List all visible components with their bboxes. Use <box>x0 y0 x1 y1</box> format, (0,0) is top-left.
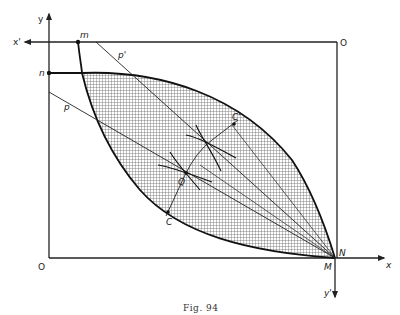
label-o-top-right: O <box>340 38 347 48</box>
figure-caption: Fig. 94 <box>183 303 219 313</box>
label-o-bottom-left: O <box>38 262 45 272</box>
point-q <box>184 171 188 175</box>
point-m <box>76 40 80 44</box>
edgeworth-box-diagram: y x' O O m n p' p C' Q C N M x y' Fig. 9… <box>0 0 400 315</box>
label-x: x <box>385 260 392 270</box>
label-n: n <box>39 68 45 78</box>
point-n <box>47 71 51 75</box>
label-q: Q <box>178 177 185 187</box>
point-c <box>166 210 170 214</box>
label-c: C <box>166 217 173 227</box>
label-big-m: M <box>324 262 332 272</box>
label-p: p <box>63 102 70 112</box>
label-c-prime: C' <box>232 112 241 122</box>
label-big-n: N <box>339 248 346 258</box>
label-p-prime: p' <box>117 50 126 60</box>
label-x-prime: x' <box>13 37 21 47</box>
label-y-prime: y' <box>323 288 332 298</box>
label-y: y <box>38 14 44 24</box>
label-m: m <box>80 30 89 40</box>
hatched-region <box>82 73 335 258</box>
point-c-prime <box>232 122 236 126</box>
